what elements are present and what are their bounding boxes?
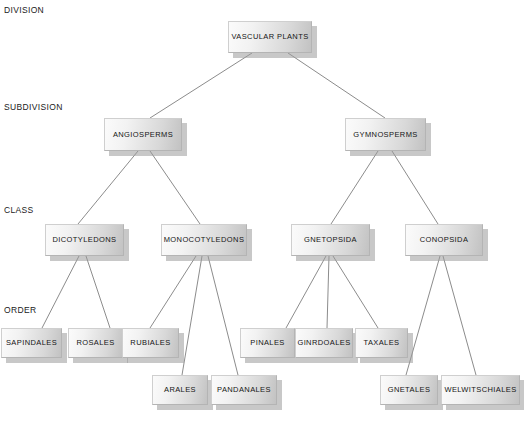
edge-vascular-plants-to-gymnosperms [288, 53, 385, 118]
edge-dicotyledons-to-rosales [86, 256, 110, 328]
node-label-taxales: TAXALES [363, 339, 399, 347]
edge-monocotyledons-to-arales [182, 256, 202, 375]
node-label-pandanales: PANDANALES [217, 386, 271, 394]
edge-angiosperms-to-monocotyledons [150, 151, 200, 224]
node-label-angiosperms: ANGIOSPERMS [113, 131, 173, 139]
node-label-gymnosperms: GYMNOSPERMS [353, 131, 417, 139]
node-label-pinales: PINALES [250, 339, 284, 347]
rank-label-subdivision: SUBDIVISION [4, 102, 63, 112]
node-sapindales[interactable]: SAPINDALES [1, 328, 62, 358]
rank-label-order: ORDER [4, 305, 36, 315]
node-vascular-plants[interactable]: VASCULAR PLANTS [228, 21, 312, 53]
node-label-ginrdoales: GINRDOALES [297, 339, 350, 347]
node-angiosperms[interactable]: ANGIOSPERMS [104, 118, 182, 151]
node-label-rosales: ROSALES [76, 339, 114, 347]
edge-monocotyledons-to-rubiales [150, 256, 196, 328]
node-rosales[interactable]: ROSALES [68, 328, 123, 358]
node-rubiales[interactable]: RUBIALES [122, 328, 179, 358]
node-pandanales[interactable]: PANDANALES [211, 375, 277, 405]
node-taxales[interactable]: TAXALES [355, 328, 408, 358]
node-conopsida[interactable]: CONOPSIDA [405, 224, 483, 256]
node-label-monocotyledons: MONOCOTYLEDONS [164, 236, 245, 244]
taxonomy-diagram: DIVISIONSUBDIVISIONCLASSORDER VASCULAR P… [0, 0, 524, 432]
node-label-welwitschiales: WELWITSCHIALES [444, 386, 516, 394]
edge-gnetopsida-to-taxales [333, 256, 378, 328]
node-label-conopsida: CONOPSIDA [420, 236, 469, 244]
node-arales[interactable]: ARALES [152, 375, 208, 405]
node-label-dicotyledons: DICOTYLEDONS [53, 236, 117, 244]
edge-monocotyledons-to-pandanales [208, 256, 238, 375]
node-label-arales: ARALES [164, 386, 196, 394]
edge-gnetopsida-to-pinales [286, 256, 326, 328]
node-gymnosperms[interactable]: GYMNOSPERMS [345, 118, 426, 151]
node-monocotyledons[interactable]: MONOCOTYLEDONS [161, 224, 247, 256]
edge-gymnosperms-to-conopsida [392, 151, 438, 224]
edge-conopsida-to-welwitschiales [443, 256, 476, 375]
node-label-vascular-plants: VASCULAR PLANTS [231, 33, 308, 41]
edge-dicotyledons-to-sapindales [42, 256, 79, 328]
node-label-gnetales: GNETALES [388, 386, 431, 394]
node-gnetopsida[interactable]: GNETOPSIDA [291, 224, 370, 256]
edge-vascular-plants-to-angiosperms [150, 53, 252, 118]
edge-angiosperms-to-dicotyledons [78, 151, 138, 224]
edge-gnetopsida-to-ginrdoales [327, 256, 329, 328]
node-pinales[interactable]: PINALES [240, 328, 295, 358]
rank-label-division: DIVISION [4, 5, 44, 15]
node-label-sapindales: SAPINDALES [6, 339, 57, 347]
node-label-rubiales: RUBIALES [130, 339, 170, 347]
node-ginrdoales[interactable]: GINRDOALES [295, 328, 353, 358]
node-welwitschiales[interactable]: WELWITSCHIALES [441, 375, 520, 405]
connector-lines [0, 0, 524, 432]
node-gnetales[interactable]: GNETALES [380, 375, 438, 405]
edge-gymnosperms-to-gnetopsida [331, 151, 378, 224]
node-label-gnetopsida: GNETOPSIDA [304, 236, 357, 244]
rank-label-class: CLASS [4, 205, 34, 215]
node-dicotyledons[interactable]: DICOTYLEDONS [45, 224, 124, 256]
